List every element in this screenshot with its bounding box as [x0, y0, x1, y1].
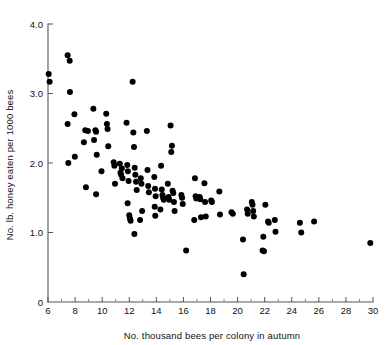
data-point — [180, 201, 186, 207]
data-point — [103, 111, 109, 117]
x-tick-label: 8 — [72, 305, 77, 316]
data-point — [311, 218, 317, 224]
data-point — [159, 186, 165, 192]
data-point — [47, 79, 53, 85]
data-point — [168, 122, 174, 128]
x-tick-label: 28 — [341, 305, 352, 316]
x-tick-label: 30 — [368, 305, 379, 316]
x-tick-label: 18 — [205, 305, 216, 316]
data-point — [273, 229, 279, 235]
data-point — [240, 236, 246, 242]
data-point — [170, 190, 176, 196]
data-point — [157, 207, 163, 213]
data-point — [119, 166, 125, 172]
data-point — [179, 195, 185, 201]
data-point — [98, 168, 104, 174]
data-point — [132, 172, 138, 178]
y-tick-label: 2.0 — [30, 158, 43, 169]
data-point — [91, 137, 97, 143]
data-point — [241, 271, 247, 277]
data-point — [83, 184, 89, 190]
data-point — [90, 106, 96, 112]
data-point — [94, 152, 100, 158]
data-point — [105, 126, 111, 132]
data-point — [125, 168, 131, 174]
x-tick-label: 20 — [232, 305, 243, 316]
data-point — [217, 211, 223, 217]
data-point — [93, 191, 99, 197]
data-point — [112, 181, 118, 187]
y-tick-label: 1.0 — [30, 227, 43, 238]
data-point — [67, 89, 73, 95]
data-point — [260, 234, 266, 240]
data-point — [261, 248, 267, 254]
data-point — [169, 143, 175, 149]
data-point — [128, 218, 134, 224]
axis-ticks — [48, 24, 373, 302]
data-point — [230, 211, 236, 217]
data-point — [171, 199, 177, 205]
x-tick-label: 10 — [97, 305, 108, 316]
data-point — [132, 165, 138, 171]
data-point — [367, 240, 373, 246]
data-point — [139, 208, 145, 214]
data-point — [137, 217, 143, 223]
data-point — [65, 121, 71, 127]
data-point — [216, 189, 222, 195]
x-tick-label: 16 — [178, 305, 189, 316]
x-tick-label: 24 — [286, 305, 297, 316]
data-point — [266, 220, 272, 226]
data-point — [209, 199, 215, 205]
data-point — [146, 189, 152, 195]
scatter-plot-figure: 681012141618202224262830 01.02.03.04.0 N… — [0, 0, 391, 345]
data-point — [71, 111, 77, 117]
data-point — [85, 128, 91, 134]
data-point — [165, 181, 171, 187]
data-point — [134, 187, 140, 193]
data-point — [152, 213, 158, 219]
x-tick-label: 12 — [124, 305, 135, 316]
y-tick-label: 0 — [38, 297, 43, 308]
data-point — [124, 162, 130, 168]
data-point — [131, 144, 137, 150]
data-point — [250, 208, 256, 214]
x-tick-label: 6 — [45, 305, 50, 316]
data-point — [168, 149, 174, 155]
data-point — [131, 231, 137, 237]
data-point — [67, 58, 73, 64]
data-point — [201, 180, 207, 186]
data-point — [262, 202, 268, 208]
data-point — [272, 217, 278, 223]
y-tick-labels: 01.02.03.04.0 — [30, 19, 43, 308]
data-point — [172, 208, 178, 214]
data-point — [249, 202, 255, 208]
data-point — [126, 178, 132, 184]
y-tick-label: 4.0 — [30, 19, 43, 30]
data-point — [65, 160, 71, 166]
data-point — [130, 129, 136, 135]
data-point — [138, 181, 144, 187]
data-point — [151, 174, 157, 180]
data-point — [245, 211, 251, 217]
x-axis-title: No. thousand bees per colony in autumn — [124, 330, 300, 341]
x-tick-label: 22 — [259, 305, 270, 316]
data-point — [153, 193, 159, 199]
data-point — [158, 163, 164, 169]
x-tick-labels: 681012141618202224262830 — [45, 305, 378, 316]
data-point — [105, 143, 111, 149]
data-point — [46, 71, 52, 77]
data-point — [152, 186, 158, 192]
data-point — [203, 214, 209, 220]
chart-canvas: 681012141618202224262830 01.02.03.04.0 N… — [0, 0, 391, 345]
data-point — [251, 214, 257, 220]
data-point — [145, 183, 151, 189]
data-point — [93, 129, 99, 135]
data-point — [191, 217, 197, 223]
data-points — [46, 52, 374, 277]
y-tick-label: 3.0 — [30, 88, 43, 99]
data-point — [297, 220, 303, 226]
data-point — [183, 248, 189, 254]
x-tick-label: 26 — [314, 305, 325, 316]
data-point — [124, 120, 130, 126]
data-point — [152, 204, 158, 210]
